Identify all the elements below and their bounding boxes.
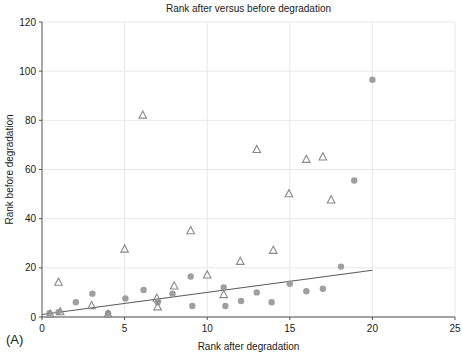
y-tick-label: 40: [25, 213, 37, 224]
chart-title: Rank after versus before degradation: [166, 3, 331, 14]
data-point-circle: [122, 295, 128, 301]
data-point-circle: [222, 303, 228, 309]
data-point-circle: [169, 290, 175, 296]
data-point-circle: [187, 273, 193, 279]
data-point-triangle: [327, 196, 335, 203]
data-point-triangle: [170, 282, 178, 289]
chart-figure: Rank after versus before degradation0204…: [0, 0, 463, 354]
y-axis-ticks: 020406080100120: [19, 17, 42, 323]
panel-label: (A): [6, 332, 23, 347]
data-point-triangle: [303, 155, 311, 162]
data-point-circle: [73, 299, 79, 305]
data-point-triangle: [139, 111, 147, 118]
data-point-triangle: [220, 290, 228, 297]
data-point-triangle: [319, 153, 327, 160]
data-point-triangle: [253, 145, 261, 152]
data-point-triangle: [285, 190, 293, 197]
data-point-triangle: [269, 246, 277, 253]
data-point-circle: [189, 303, 195, 309]
data-point-circle: [238, 298, 244, 304]
x-tick-label: 10: [202, 323, 214, 334]
data-point-circle: [303, 288, 309, 294]
data-point-circle: [89, 290, 95, 296]
y-tick-label: 100: [19, 66, 36, 77]
x-tick-label: 5: [122, 323, 128, 334]
x-tick-label: 20: [367, 323, 379, 334]
x-axis-label: Rank after degradation: [198, 341, 300, 352]
data-point-triangle: [187, 226, 195, 233]
y-tick-label: 80: [25, 115, 37, 126]
y-tick-label: 60: [25, 164, 37, 175]
data-point-triangle: [55, 278, 63, 285]
y-tick-label: 20: [25, 262, 37, 273]
data-point-circle: [351, 177, 357, 183]
x-tick-label: 0: [39, 323, 45, 334]
y-axis-label: Rank before degradation: [4, 114, 15, 224]
y-tick-label: 0: [30, 312, 36, 323]
grid-lines: [42, 22, 455, 317]
data-point-circle: [268, 299, 274, 305]
x-axis-ticks: 0510152025: [39, 317, 461, 334]
data-point-circle: [254, 289, 260, 295]
series-circles: [46, 77, 375, 317]
scatter-plot-svg: Rank after versus before degradation0204…: [0, 0, 463, 354]
x-tick-label: 15: [284, 323, 296, 334]
x-tick-label: 25: [449, 323, 461, 334]
data-point-circle: [320, 286, 326, 292]
data-point-circle: [369, 77, 375, 83]
data-point-circle: [287, 281, 293, 287]
data-point-circle: [338, 263, 344, 269]
y-tick-label: 120: [19, 17, 36, 28]
data-point-triangle: [236, 257, 244, 264]
data-point-circle: [140, 287, 146, 293]
